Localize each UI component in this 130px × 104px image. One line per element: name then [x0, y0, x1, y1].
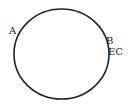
point-label-ec: EC: [108, 47, 123, 57]
point-label-a: A: [9, 26, 16, 36]
point-label-b: B: [106, 36, 113, 46]
circle-diagram: A B EC: [0, 0, 130, 104]
